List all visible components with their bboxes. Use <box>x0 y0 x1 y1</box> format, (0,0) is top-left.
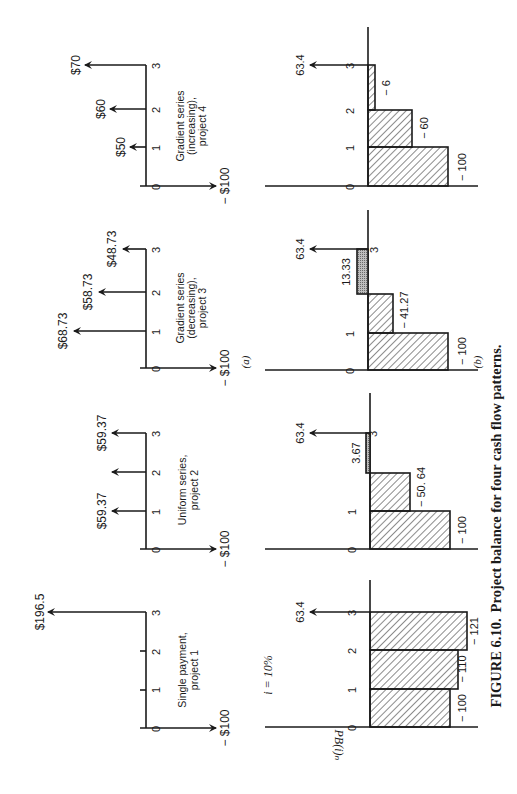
interest-rate-label: i = 10% <box>261 655 275 694</box>
panel-a-label: (a) <box>239 355 252 368</box>
balance-label: − 121 <box>468 617 480 645</box>
tick-label: 0 <box>346 725 358 731</box>
balance-label: − 100 <box>456 516 468 544</box>
tick-label: 2 <box>346 648 358 654</box>
panel-b-project-1: 0 1 2 3 − 100 − 110 − 121 63.4 i = 10% P… <box>261 580 480 761</box>
tick-label: 3 <box>368 247 380 253</box>
project-name: Single payment, <box>176 632 188 707</box>
tick-label: 0 <box>344 184 356 190</box>
balance-label: − 6 <box>380 80 392 96</box>
outflow-label: − $100 <box>218 530 232 567</box>
tick-label: 0 <box>150 184 162 190</box>
balance-label: − 100 <box>456 337 468 365</box>
tick-label: 3 <box>150 431 162 437</box>
tick-label: 3 <box>150 610 162 616</box>
tick-label: 1 <box>150 687 162 693</box>
outflow-label: − $100 <box>218 349 232 386</box>
balance-label: − 100 <box>456 153 468 181</box>
tick-label: 1 <box>346 509 358 515</box>
panel-a-project-4: 0 1 2 3 $50 $60 $70 − $100 Gradient seri… <box>69 55 232 205</box>
panel-b-label: (b) <box>471 355 484 368</box>
tick-label: 1 <box>344 145 356 151</box>
project-name: project 3 <box>196 288 208 328</box>
tick-label: 3 <box>367 431 379 437</box>
tick-label: 3 <box>346 610 358 616</box>
panel-b-project-4: 0 1 2 3 − 100 − 60 − 6 63.4 <box>265 27 478 190</box>
tick-label: 0 <box>150 726 162 732</box>
tick-label: 1 <box>150 329 162 335</box>
project-name: project 2 <box>188 470 200 510</box>
figure-canvas: 0 1 2 3 $196.5 − $100 Single payment, pr… <box>0 0 517 794</box>
project-name: project 4 <box>196 106 208 146</box>
tick-label: 2 <box>150 470 162 476</box>
cash-flow-label: $196.5 <box>33 593 47 630</box>
tick-label: 0 <box>150 547 162 553</box>
tick-label: 0 <box>150 366 162 372</box>
panel-b-project-2: 0 1 3 − 100 − 50. 64 3.67 63.4 <box>265 393 478 553</box>
tick-label: 2 <box>150 649 162 655</box>
balance-label: 3.67 <box>350 442 362 463</box>
tick-label: 0 <box>344 368 356 374</box>
cash-flow-label: $50 <box>114 137 128 157</box>
tick-label: 1 <box>150 509 162 515</box>
panel-a-project-1: 0 1 2 3 $196.5 − $100 Single payment, pr… <box>33 593 232 746</box>
caption-text: Project balance for four cash flow patte… <box>488 345 504 613</box>
panel-a-project-3: 0 1 2 3 $68.73 $58.73 $48.73 − $100 Grad… <box>56 230 232 386</box>
tick-label: 2 <box>150 107 162 113</box>
tick-label: 1 <box>344 331 356 337</box>
balance-label: − 100 <box>456 694 468 722</box>
y-axis-label: PB(i)ₙ <box>332 729 346 761</box>
tick-label: 2 <box>344 108 356 114</box>
final-balance-label: 63.4 <box>294 601 306 622</box>
outflow-label: − $100 <box>218 709 232 746</box>
final-balance-label: 63.4 <box>294 238 306 259</box>
cash-flow-label: $60 <box>94 99 108 119</box>
final-balance-label: 63.4 <box>294 422 306 443</box>
tick-label: 1 <box>346 687 358 693</box>
cash-flow-label: $58.73 <box>81 273 95 310</box>
cash-flow-label: $59.37 <box>95 492 109 529</box>
tick-label: 0 <box>346 547 358 553</box>
final-balance-label: 63.4 <box>294 54 306 75</box>
caption-label: FIGURE 6.10. <box>488 618 504 707</box>
balance-label: 13.33 <box>340 258 352 286</box>
cash-flow-label: $68.73 <box>56 312 70 349</box>
balance-label: − 50. 64 <box>415 467 427 507</box>
cash-flow-label: $48.73 <box>105 230 119 267</box>
balance-label: − 41.27 <box>398 291 410 328</box>
panel-b-project-3: 0 1 3 − 100 − 41.27 13.33 63.4 <box>265 210 478 374</box>
tick-label: 3 <box>344 63 356 69</box>
tick-label: 3 <box>150 247 162 253</box>
tick-label: 3 <box>150 63 162 69</box>
balance-label: − 60 <box>418 117 430 139</box>
tick-label: 1 <box>150 145 162 151</box>
tick-label: 2 <box>150 290 162 296</box>
panel-a-project-2: 0 1 2 3 $59.37 $59.37 − $100 Uniform ser… <box>95 414 232 567</box>
cash-flow-label: $70 <box>69 55 83 75</box>
outflow-label: − $100 <box>218 167 232 204</box>
figure-caption: FIGURE 6.10.Project balance for four cas… <box>488 345 504 708</box>
cash-flow-label: $59.37 <box>95 414 109 451</box>
project-name: Uniform series, <box>176 455 188 526</box>
balance-label: − 110 <box>456 655 468 682</box>
project-name: project 1 <box>188 650 200 690</box>
